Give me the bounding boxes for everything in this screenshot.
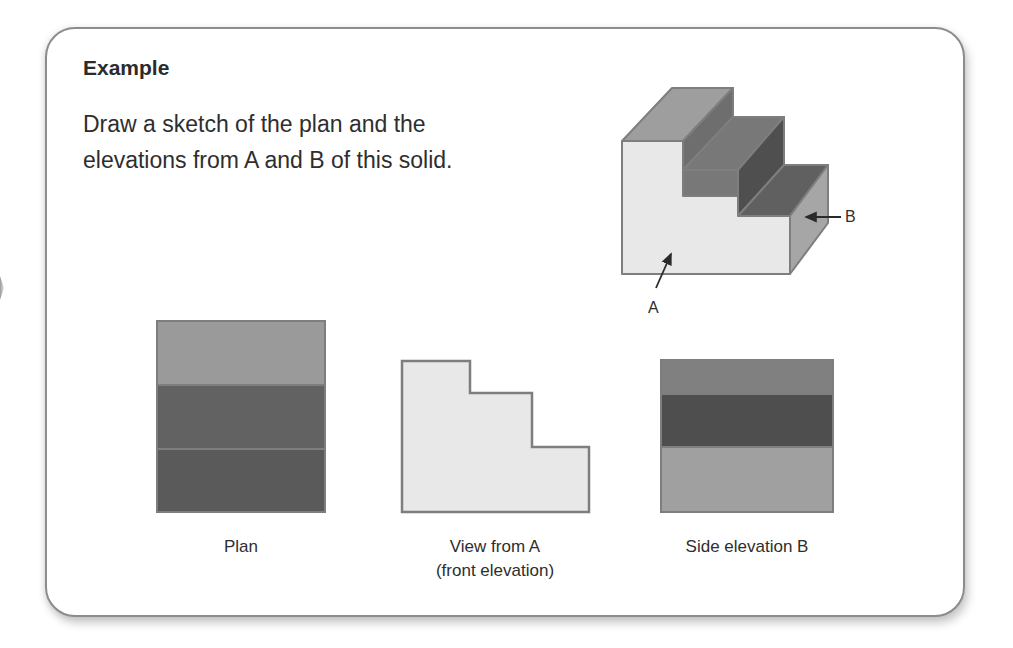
label-b: B xyxy=(845,208,856,226)
caption-plan: Plan xyxy=(224,535,258,559)
side-band-bottom xyxy=(661,447,833,512)
stepped-solid-3d xyxy=(622,88,828,274)
plan-band-bottom xyxy=(157,449,325,512)
side-band-top xyxy=(661,360,833,394)
caption-front: View from A (front elevation) xyxy=(436,535,554,583)
plan-band-middle xyxy=(157,385,325,449)
plan-band-top xyxy=(157,321,325,385)
label-a: A xyxy=(648,299,659,317)
caption-front-line-1: View from A xyxy=(436,535,554,559)
caption-plan-line-1: Plan xyxy=(224,535,258,559)
caption-side-line-1: Side elevation B xyxy=(686,535,809,559)
side-elevation-view xyxy=(661,360,833,512)
plan-view xyxy=(157,321,325,512)
middle-tread-front xyxy=(683,170,738,196)
caption-front-line-2: (front elevation) xyxy=(436,559,554,583)
side-band-middle xyxy=(661,394,833,447)
caption-side: Side elevation B xyxy=(686,535,809,559)
front-elevation-view xyxy=(402,361,589,512)
